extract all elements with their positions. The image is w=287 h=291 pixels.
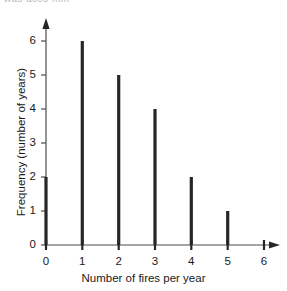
x-tick-label-2: 2 [109,256,129,268]
x-tick-label-4: 4 [181,256,201,268]
fires-per-year-frequency-chart: was acco mm [0,0,287,291]
x-tick-label-6: 6 [254,256,274,268]
y-axis-arrowhead [42,18,49,29]
x-tick-label-0: 0 [36,256,56,268]
data-bars [46,41,228,245]
x-axis-arrowhead [269,242,280,249]
x-axis-title: Number of fires per year [0,272,287,284]
x-tick-label-5: 5 [218,256,238,268]
x-tick-label-3: 3 [145,256,165,268]
x-tick-label-1: 1 [72,256,92,268]
chart-plot-area [0,0,287,291]
y-axis-title: Frequency (number of years) [15,37,27,247]
